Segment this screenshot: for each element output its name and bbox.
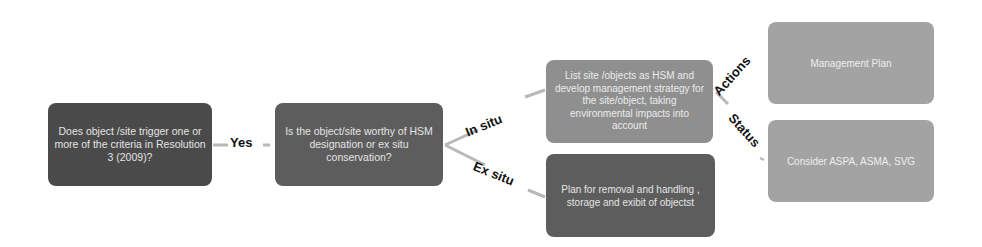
node-list-hsm: List site /objects as HSM and develop ma…	[546, 60, 713, 143]
node-plan-removal-text: Plan for removal and handling , storage …	[552, 183, 709, 209]
connector-exsitu-end	[528, 190, 545, 197]
node-plan-removal: Plan for removal and handling , storage …	[546, 154, 715, 237]
node-criteria-question-text: Does object /site trigger one or more of…	[54, 125, 206, 164]
node-list-hsm-text: List site /objects as HSM and develop ma…	[552, 70, 707, 133]
node-worthy-question: Is the object/site worthy of HSM designa…	[275, 103, 443, 186]
node-worthy-question-text: Is the object/site worthy of HSM designa…	[281, 125, 437, 164]
edge-label-yes: Yes	[230, 135, 252, 150]
node-criteria-question: Does object /site trigger one or more of…	[48, 103, 212, 186]
node-management-plan-text: Management Plan	[810, 57, 891, 70]
node-management-plan: Management Plan	[768, 22, 934, 104]
node-consider-aspa: Consider ASPA, ASMA, SVG	[768, 120, 934, 202]
connector-insitu-end	[525, 90, 545, 97]
connector-status-end	[760, 158, 764, 160]
node-consider-aspa-text: Consider ASPA, ASMA, SVG	[787, 155, 915, 168]
